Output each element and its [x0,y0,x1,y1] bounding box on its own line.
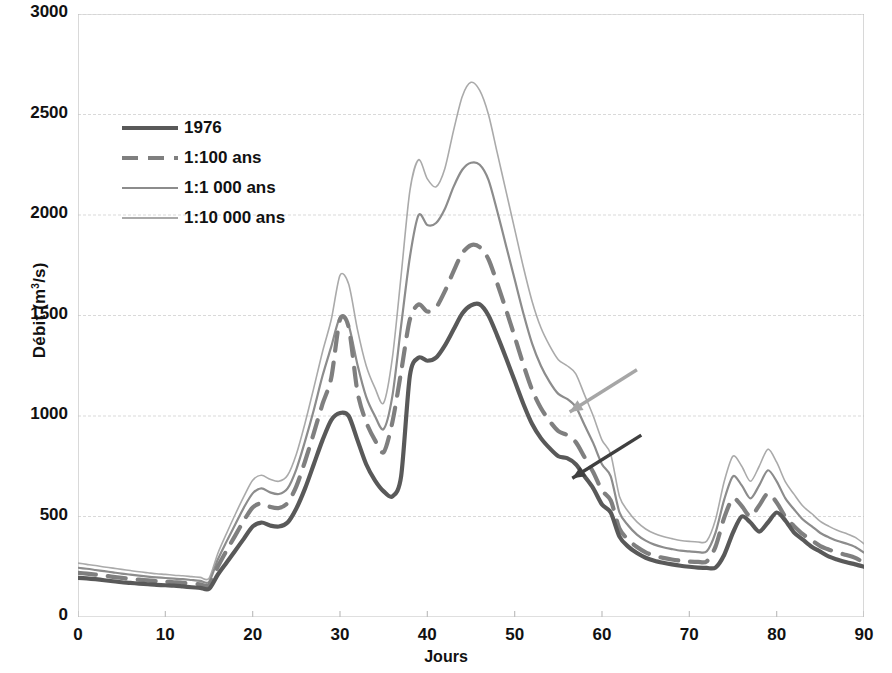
y-tick-label: 500 [6,506,68,523]
legend-label: 1:1 000 ans [184,178,276,198]
x-tick-label: 60 [577,626,627,643]
legend-item-1976: 1976 [122,113,285,143]
plot-area [78,14,864,617]
legend-swatch-icon [122,121,178,135]
chart-legend: 19761:100 ans1:1 000 ans1:10 000 ans [122,113,285,233]
legend-item-1-10-000-ans: 1:10 000 ans [122,203,285,233]
legend-swatch-icon [122,181,178,195]
x-tick-label: 10 [140,626,190,643]
legend-swatch-icon [122,151,178,165]
legend-swatch-icon [122,211,178,225]
plot-svg [78,14,864,617]
x-tick-label: 80 [752,626,802,643]
x-tick-label: 30 [315,626,365,643]
x-tick-label: 90 [839,626,889,643]
y-axis-title-tail: /s) [30,262,49,282]
x-tick-label: 40 [402,626,452,643]
y-axis-title-exponent: 3 [30,283,41,289]
y-tick-label: 3000 [6,3,68,20]
y-tick-label: 1000 [6,405,68,422]
legend-label: 1:10 000 ans [184,208,285,228]
y-tick-label: 2000 [6,204,68,221]
y-tick-label: 2500 [6,104,68,121]
series-line-1976 [78,304,864,590]
y-tick-label: 0 [6,606,68,623]
x-axis-title: Jours [0,648,892,666]
y-axis-title-main: Débit (m [30,289,49,359]
legend-label: 1:100 ans [184,148,262,168]
legend-item-1-1-000-ans: 1:1 000 ans [122,173,285,203]
chart-figure: Débit (m3/s) 300025002000150010005000 01… [0,0,892,673]
x-tick-label: 70 [664,626,714,643]
x-tick-label: 0 [53,626,103,643]
legend-item-1-100-ans: 1:100 ans [122,143,285,173]
legend-label: 1976 [184,118,222,138]
x-tick-label: 20 [228,626,278,643]
arrow-to-10000-curve [570,370,637,412]
x-tick-label: 50 [490,626,540,643]
y-tick-label: 1500 [6,305,68,322]
